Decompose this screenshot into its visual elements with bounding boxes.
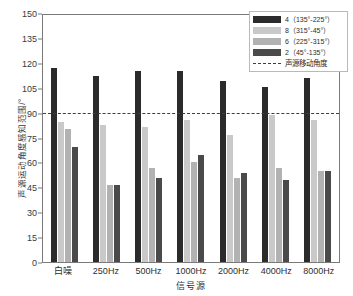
legend-item[interactable]: 8（315°-45°） bbox=[253, 25, 344, 36]
bar[interactable] bbox=[283, 180, 289, 262]
bar[interactable] bbox=[177, 71, 183, 262]
y-tick-label: 75 bbox=[27, 134, 37, 143]
bar[interactable] bbox=[220, 81, 226, 262]
bar[interactable] bbox=[58, 122, 64, 262]
bar-group bbox=[128, 15, 170, 262]
y-tick-label: 150 bbox=[22, 10, 37, 19]
chart-container: 声源运动角度感知范围/° 1501351201059075604530150 白… bbox=[0, 0, 353, 296]
chart-legend: 4（135°-225°）8（315°-45°）6（225°-315°）2（45°… bbox=[249, 11, 348, 72]
bar-group bbox=[85, 15, 127, 262]
legend-item[interactable]: 6（225°-315°） bbox=[253, 36, 344, 47]
bar[interactable] bbox=[107, 185, 113, 262]
bar[interactable] bbox=[156, 178, 162, 262]
legend-swatch-icon bbox=[253, 49, 281, 56]
bar[interactable] bbox=[318, 171, 324, 262]
legend-item-reference-line[interactable]: 声源移动角度 bbox=[253, 58, 344, 69]
legend-item-label: 2（45°-135°） bbox=[285, 49, 330, 57]
bar[interactable] bbox=[269, 115, 275, 262]
bar[interactable] bbox=[227, 135, 233, 262]
legend-swatch-icon bbox=[253, 38, 281, 45]
bar[interactable] bbox=[135, 71, 141, 262]
x-tick-label: 2000Hz bbox=[212, 264, 255, 280]
legend-item[interactable]: 2（45°-135°） bbox=[253, 47, 344, 58]
legend-item[interactable]: 4（135°-225°） bbox=[253, 14, 344, 25]
reference-line bbox=[43, 113, 339, 114]
bar[interactable] bbox=[325, 171, 331, 262]
bar[interactable] bbox=[234, 178, 240, 262]
bar[interactable] bbox=[241, 173, 247, 262]
legend-swatch-icon bbox=[253, 16, 281, 23]
bar[interactable] bbox=[276, 168, 282, 262]
x-tick-label: 4000Hz bbox=[255, 264, 298, 280]
y-tick-label: 0 bbox=[32, 259, 37, 268]
y-tick-label: 15 bbox=[27, 234, 37, 243]
bar[interactable] bbox=[51, 68, 57, 262]
bar[interactable] bbox=[184, 120, 190, 262]
y-tick-label: 120 bbox=[22, 59, 37, 68]
y-tick-label: 105 bbox=[22, 84, 37, 93]
bar[interactable] bbox=[72, 147, 78, 262]
y-axis-ticks: 1501351201059075604530150 bbox=[0, 14, 42, 263]
bar[interactable] bbox=[93, 76, 99, 262]
x-tick-label: 8000Hz bbox=[297, 264, 340, 280]
y-tick-label: 60 bbox=[27, 159, 37, 168]
bar-group bbox=[170, 15, 212, 262]
bar[interactable] bbox=[114, 185, 120, 262]
dashed-line-icon bbox=[253, 63, 281, 64]
legend-reference-label: 声源移动角度 bbox=[285, 60, 327, 68]
legend-item-label: 6（225°-315°） bbox=[285, 38, 334, 46]
bar-group bbox=[43, 15, 85, 262]
bar[interactable] bbox=[304, 78, 310, 262]
bar[interactable] bbox=[149, 168, 155, 262]
x-tick-label: 250Hz bbox=[85, 264, 128, 280]
y-tick-label: 30 bbox=[27, 209, 37, 218]
bar[interactable] bbox=[198, 155, 204, 262]
legend-item-label: 4（135°-225°） bbox=[285, 16, 334, 24]
x-tick-label: 白噪 bbox=[42, 264, 85, 280]
legend-swatch-icon bbox=[253, 27, 281, 34]
y-tick-label: 135 bbox=[22, 34, 37, 43]
x-tick-label: 500Hz bbox=[127, 264, 170, 280]
x-axis-ticks: 白噪250Hz500Hz1000Hz2000Hz4000Hz8000Hz bbox=[42, 264, 340, 280]
x-tick-label: 1000Hz bbox=[170, 264, 213, 280]
y-tick-label: 45 bbox=[27, 184, 37, 193]
x-axis-title: 信号源 bbox=[42, 279, 340, 292]
bar[interactable] bbox=[191, 162, 197, 262]
y-tick-label: 90 bbox=[27, 109, 37, 118]
bar[interactable] bbox=[65, 129, 71, 262]
bar[interactable] bbox=[100, 125, 106, 262]
legend-item-label: 8（315°-45°） bbox=[285, 27, 330, 35]
bar[interactable] bbox=[142, 127, 148, 262]
bar[interactable] bbox=[311, 120, 317, 262]
